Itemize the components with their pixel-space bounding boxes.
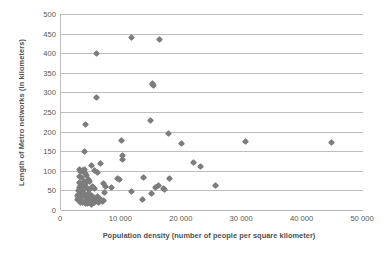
y-tick-label-200: 200 (26, 127, 56, 136)
y-tick-label-100: 100 (26, 166, 56, 175)
gridline-y-0 (61, 210, 363, 211)
data-point (148, 190, 155, 197)
plot-area (60, 14, 363, 210)
data-point (165, 130, 172, 137)
y-tick-label-500: 500 (26, 10, 56, 19)
data-point (100, 197, 107, 204)
y-tick-label-300: 300 (26, 88, 56, 97)
data-point (108, 184, 115, 191)
data-point (242, 137, 249, 144)
data-point (116, 175, 123, 182)
x-tick-label-40000: 40 000 (290, 214, 313, 223)
data-point (92, 50, 99, 57)
data-point (197, 163, 204, 170)
y-tick-label-350: 350 (26, 68, 56, 77)
x-tick-label-10000: 10 000 (109, 214, 132, 223)
data-point (94, 169, 101, 176)
x-tick-label-20000: 20 000 (169, 214, 192, 223)
x-axis-title: Population density (number of people per… (44, 231, 374, 240)
y-tick-label-250: 250 (26, 108, 56, 117)
y-tick-label-150: 150 (26, 147, 56, 156)
data-point (140, 174, 147, 181)
y-axis-tick-labels: 050100150200250300350400450500 (26, 10, 56, 210)
data-point (147, 117, 154, 124)
scatter-chart: Length of Metro networks (in kilometers)… (0, 0, 390, 260)
y-tick-label-450: 450 (26, 29, 56, 38)
data-point (212, 182, 219, 189)
data-point (190, 159, 197, 166)
x-tick-label-30000: 30 000 (230, 214, 253, 223)
x-tick-label-0: 0 (58, 214, 62, 223)
data-point (81, 148, 88, 155)
data-point (97, 160, 104, 167)
y-tick-label-50: 50 (26, 186, 56, 195)
y-tick-label-0: 0 (26, 206, 56, 215)
data-point (166, 175, 173, 182)
data-point (161, 186, 168, 193)
y-tick-label-400: 400 (26, 49, 56, 58)
data-point (139, 196, 146, 203)
data-point (328, 139, 335, 146)
y-axis-title: Length of Metro networks (in kilometers) (17, 18, 26, 208)
x-axis-tick-labels: 010 00020 00030 00040 00050 000 (60, 214, 390, 226)
data-point (118, 137, 125, 144)
data-point (156, 36, 163, 43)
data-point (178, 140, 185, 147)
data-point (128, 34, 135, 41)
x-tick-label-50000: 50 000 (350, 214, 373, 223)
data-point (93, 94, 100, 101)
data-point (119, 155, 126, 162)
data-points-layer (61, 14, 363, 210)
data-point (101, 189, 108, 196)
data-point (91, 185, 98, 192)
data-point (128, 188, 135, 195)
data-point (82, 121, 89, 128)
